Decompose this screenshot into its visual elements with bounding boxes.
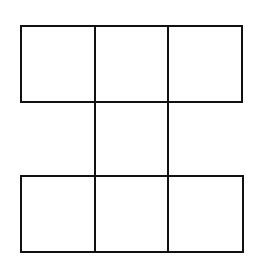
net-cells [21,26,243,252]
net-square-r2-c2 [168,176,243,252]
net-square-r1-c1 [95,102,168,176]
net-square-r0-c1 [95,26,168,102]
square-net-diagram [0,0,260,268]
net-square-r0-c0 [21,26,95,102]
net-square-r2-c0 [21,176,95,252]
net-square-r2-c1 [95,176,168,252]
net-square-r0-c2 [168,26,242,102]
